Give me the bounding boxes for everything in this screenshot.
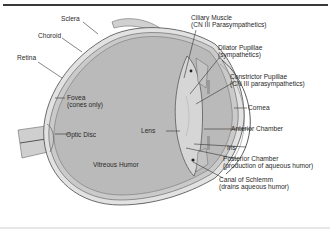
label-ciliary-muscle: Ciliary Muscle (CN III Parasympathetics) <box>191 14 266 29</box>
label-lens: Lens <box>141 127 155 134</box>
label-vitreous-humor-text: Vitreous Humor <box>93 161 139 168</box>
label-optic-disc: Optic Disc <box>66 131 96 138</box>
label-constrictor-pupillae: Constrictor Pupillae (CN III parasympath… <box>230 73 305 88</box>
label-constrictor-pupillae-text: Constrictor Pupillae <box>230 73 305 80</box>
label-vitreous-humor: Vitreous Humor <box>93 161 139 168</box>
canal-of-schlemm-top <box>190 70 193 73</box>
label-canal-of-schlemm: Canal of Schlemm (drains aqueous humor) <box>219 176 289 191</box>
label-retina: Retina <box>17 54 36 61</box>
label-dilator-pupillae-note: (sympathetics) <box>218 51 262 58</box>
label-dilator-pupillae: Dilator Pupillae (sympathetics) <box>218 44 262 59</box>
label-dilator-pupillae-text: Dilator Pupillae <box>218 44 262 51</box>
label-lens-text: Lens <box>141 127 155 134</box>
iris-top <box>207 80 210 94</box>
label-anterior-chamber-text: Anterior Chamber <box>231 125 283 132</box>
label-anterior-chamber: Anterior Chamber <box>231 125 283 132</box>
label-posterior-chamber-text: Posterior Chamber <box>223 155 313 162</box>
label-fovea: Fovea (cones only) <box>67 94 103 109</box>
label-choroid-text: Choroid <box>38 32 61 39</box>
label-retina-text: Retina <box>17 54 36 61</box>
label-cornea: Cornea <box>248 104 270 111</box>
label-posterior-chamber-note: (production of aqueous humor) <box>223 162 313 169</box>
label-fovea-text: Fovea <box>67 94 103 101</box>
label-constrictor-pupillae-note: (CN III parasympathetics) <box>230 80 305 87</box>
label-choroid: Choroid <box>38 32 61 39</box>
label-canal-of-schlemm-text: Canal of Schlemm <box>219 176 289 183</box>
canal-of-schlemm-bottom <box>191 158 194 161</box>
label-fovea-note: (cones only) <box>67 101 103 108</box>
iris-bottom <box>207 136 210 150</box>
label-posterior-chamber: Posterior Chamber (production of aqueous… <box>223 155 313 170</box>
label-sclera: Sclera <box>61 15 80 22</box>
label-canal-of-schlemm-note: (drains aqueous humor) <box>219 183 289 190</box>
label-ciliary-muscle-text: Ciliary Muscle <box>191 14 266 21</box>
label-cornea-text: Cornea <box>248 104 270 111</box>
bottom-rule <box>0 227 330 229</box>
label-iris-text: Iris <box>227 144 236 151</box>
label-iris: Iris <box>227 144 236 151</box>
label-ciliary-muscle-note: (CN III Parasympathetics) <box>191 21 266 28</box>
label-optic-disc-text: Optic Disc <box>66 131 96 138</box>
label-sclera-text: Sclera <box>61 15 80 22</box>
